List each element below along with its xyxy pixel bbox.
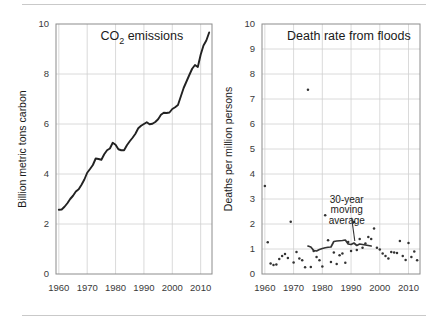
x-axis-tick-labels: 196019701980199020002010: [48, 282, 211, 293]
scatter-point: [315, 256, 318, 259]
scatter-point: [269, 262, 272, 265]
x-tick-label: 2010: [398, 282, 419, 293]
x-tick-label: 1960: [48, 282, 69, 293]
x-tick-label: 1970: [283, 282, 304, 293]
x-tick-label: 1970: [77, 282, 98, 293]
y-tick-label: 10: [38, 18, 49, 29]
scatter-point: [379, 248, 382, 251]
scatter-point: [301, 259, 304, 262]
scatter-point: [350, 250, 353, 253]
scatter-point: [381, 252, 384, 255]
scatter-point: [387, 257, 390, 260]
scatter-point: [399, 240, 402, 243]
scatter-point: [396, 252, 399, 255]
scatter-point: [310, 266, 313, 269]
y-tick-label: 5: [250, 143, 255, 154]
scatter-point: [358, 238, 361, 241]
scatter-point: [341, 252, 344, 255]
scatter-point: [321, 265, 324, 268]
y-tick-label: 7: [250, 93, 255, 104]
chart-title: Death rate from floods: [287, 29, 411, 43]
grid-lines: [56, 24, 212, 274]
scatter-point: [284, 253, 287, 256]
y-tick-label: 9: [250, 43, 255, 54]
y-tick-label: 1: [250, 243, 255, 254]
grid-lines: [262, 24, 420, 274]
y-axis-title: Deaths per million persons: [222, 87, 234, 211]
y-tick-label: 8: [250, 68, 255, 79]
y-tick-label: 2: [250, 218, 255, 229]
y-tick-label: 6: [250, 118, 255, 129]
data-line: [59, 33, 209, 210]
scatter-point: [333, 251, 336, 254]
scatter-point: [413, 250, 416, 253]
scatter-point: [327, 239, 330, 242]
scatter-point: [402, 255, 405, 258]
flood-death-rate-chart: 012345678910196019701980199020002010Deat…: [224, 0, 448, 326]
y-tick-label: 4: [44, 168, 49, 179]
co2-emissions-chart: 0246810196019701980199020002010Billion m…: [0, 0, 224, 326]
x-axis-tick-labels: 196019701980199020002010: [254, 282, 419, 293]
scatter-point: [298, 257, 301, 260]
y-tick-label: 0: [250, 268, 255, 279]
x-tick-label: 2000: [162, 282, 183, 293]
y-tick-label: 10: [244, 18, 255, 29]
scatter-point: [289, 221, 292, 224]
scatter-point: [393, 251, 396, 254]
scatter-points: [264, 89, 419, 269]
scatter-point: [384, 255, 387, 258]
scatter-point: [390, 251, 393, 254]
scatter-point: [370, 238, 373, 241]
x-tick-label: 1990: [340, 282, 361, 293]
x-tick-label: 1980: [105, 282, 126, 293]
y-tick-label: 3: [250, 193, 255, 204]
scatter-point: [344, 262, 347, 265]
scatter-point: [278, 258, 281, 261]
scatter-point: [307, 89, 310, 92]
x-tick-label: 2010: [190, 282, 211, 293]
x-tick-label: 1990: [133, 282, 154, 293]
scatter-point: [266, 241, 269, 244]
chart-panel-co2-emissions: 0246810196019701980199020002010Billion m…: [0, 0, 224, 326]
scatter-point: [335, 263, 338, 266]
scatter-point: [272, 264, 275, 267]
scatter-point: [404, 259, 407, 262]
annotation-text: 30-yearmovingaverage: [329, 194, 366, 226]
scatter-point: [376, 247, 379, 250]
scatter-point: [304, 266, 307, 269]
x-tick-label: 2000: [369, 282, 390, 293]
scatter-point: [367, 236, 370, 239]
scatter-point: [410, 256, 413, 259]
y-axis-title: Billion metric tons carbon: [16, 90, 28, 207]
y-tick-label: 0: [44, 268, 49, 279]
x-tick-label: 1980: [312, 282, 333, 293]
scatter-point: [338, 254, 341, 257]
scatter-point: [295, 251, 298, 254]
chart-panel-flood-death-rate: 012345678910196019701980199020002010Deat…: [224, 0, 448, 326]
scatter-point: [330, 261, 333, 264]
y-tick-label: 8: [44, 68, 49, 79]
annotation: 30-yearmovingaverage: [329, 194, 366, 241]
scatter-point: [416, 259, 419, 262]
scatter-point: [287, 257, 290, 260]
figure-root: 0246810196019701980199020002010Billion m…: [0, 0, 448, 326]
y-tick-label: 6: [44, 118, 49, 129]
scatter-point: [292, 261, 295, 264]
scatter-point: [324, 214, 327, 217]
scatter-point: [356, 249, 359, 252]
y-tick-label: 2: [44, 218, 49, 229]
y-axis-tick-labels: 0246810: [38, 18, 49, 279]
scatter-point: [264, 185, 267, 188]
scatter-point: [373, 227, 376, 230]
scatter-point: [361, 247, 364, 250]
x-tick-label: 1960: [254, 282, 275, 293]
y-tick-label: 4: [250, 168, 255, 179]
plot-frame: [56, 24, 212, 274]
chart-title: CO2 emissions: [100, 29, 183, 46]
scatter-point: [281, 255, 284, 258]
y-axis-tick-labels: 012345678910: [244, 18, 255, 279]
scatter-point: [407, 242, 410, 245]
scatter-point: [318, 259, 321, 262]
scatter-point: [275, 263, 278, 266]
